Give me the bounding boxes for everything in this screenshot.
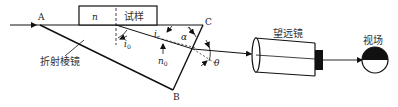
sample-label: 试样 xyxy=(124,10,144,22)
telescope-eyepiece xyxy=(315,50,323,70)
sample-index-label: n xyxy=(92,12,98,22)
prism-side-bc xyxy=(173,25,203,90)
refraction-angle-label: ir xyxy=(154,29,160,40)
prism-label: 折射棱镜 xyxy=(40,55,80,67)
field-of-view-dark-half xyxy=(362,47,388,60)
point-a-label: A xyxy=(37,12,45,22)
prism-index-label: n0 xyxy=(158,56,168,67)
telescope-axis xyxy=(256,55,315,59)
ray-extension xyxy=(162,39,196,48)
prism-angle-label: α xyxy=(181,32,187,42)
incidence-angle-label: i0 xyxy=(124,39,131,50)
exit-ray xyxy=(193,49,251,54)
exit-angle-label: θ xyxy=(214,58,220,68)
field-of-view-label: 视场 xyxy=(363,34,383,46)
telescope-label: 望远镜 xyxy=(273,27,303,39)
point-c-label: C xyxy=(205,17,212,27)
refractometer-diagram: A B C n 试样 折射棱镜 望远镜 视场 i0 ir n0 α θ xyxy=(0,0,398,107)
sample-block xyxy=(79,6,157,25)
point-b-label: B xyxy=(173,92,180,102)
